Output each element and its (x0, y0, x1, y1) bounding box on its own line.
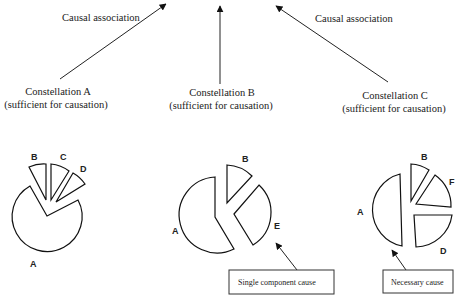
piece-a-label: A (172, 226, 179, 236)
piece-d-label: D (440, 246, 447, 256)
constellation-b-subtitle: (sufficient for causation) (169, 100, 273, 112)
constellation-a-subtitle: (sufficient for causation) (4, 99, 108, 111)
constellation-c-title: Constellation C (362, 90, 428, 101)
pie-constellation-c: B F A D (357, 152, 455, 256)
piece-a-label: A (30, 259, 37, 269)
causal-pie-diagram: Causal association Causal association Co… (0, 0, 462, 305)
piece-a-label: A (357, 207, 364, 217)
piece-a (12, 186, 82, 252)
callout-arrow-single (276, 243, 297, 270)
piece-a (179, 177, 234, 253)
necessary-cause-text: Necessary cause (391, 278, 444, 287)
constellation-a-title: Constellation A (25, 86, 91, 97)
constellation-c-subtitle: (sufficient for causation) (342, 103, 446, 115)
piece-b-label: B (31, 152, 38, 162)
causal-association-label-right: Causal association (315, 13, 394, 24)
piece-e (234, 185, 271, 245)
piece-a (372, 174, 402, 246)
causal-association-label-left: Causal association (62, 12, 141, 23)
piece-b-label: B (421, 152, 428, 162)
constellation-b-title: Constellation B (189, 87, 255, 98)
pie-constellation-b: B A E (172, 154, 280, 253)
piece-b-label: B (242, 154, 249, 164)
piece-d (414, 215, 452, 247)
single-component-cause-text: Single component cause (238, 278, 316, 287)
pie-constellation-a: B C D A (12, 152, 87, 269)
piece-c-label: C (60, 152, 67, 162)
callout-arrow-necessary (392, 250, 406, 270)
piece-e-label: E (274, 221, 280, 231)
piece-f-label: F (449, 177, 455, 187)
piece-d-label: D (80, 164, 87, 174)
